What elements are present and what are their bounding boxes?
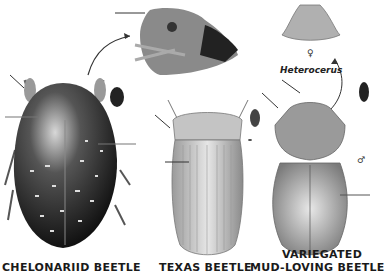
caption-texas: TEXAS BEETLE [159, 262, 252, 274]
caption-chelonariid: CHELONARIID BEETLE [2, 262, 141, 274]
caption-variegated-line1: VARIEGATED [270, 249, 374, 261]
genus-label: Heterocerus [280, 65, 342, 75]
variegated-beetle [262, 5, 370, 255]
male-symbol: ♂ [357, 155, 365, 165]
head-detail [115, 8, 238, 75]
chelonariid-beetle [5, 33, 136, 248]
caption-variegated-line2: MUD-LOVING BEETLE [250, 262, 385, 274]
female-symbol: ♀ [307, 48, 314, 58]
texas-beetle [155, 100, 260, 255]
